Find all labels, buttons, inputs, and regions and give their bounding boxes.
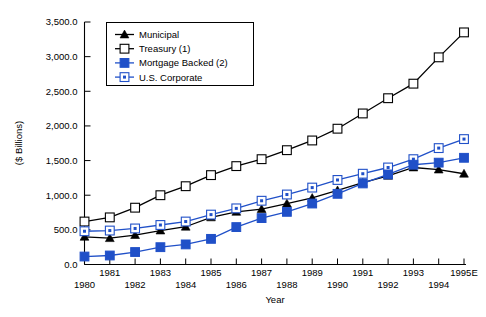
series-line: [85, 139, 465, 231]
marker-square-dot-center: [285, 193, 288, 196]
marker-square-open: [333, 124, 342, 133]
marker-square-open: [80, 217, 89, 226]
marker-square-filled: [80, 252, 89, 261]
marker-square-dot-center: [184, 220, 187, 223]
marker-square-dot-center: [235, 207, 238, 210]
y-axis-title: ($ Billions): [13, 121, 24, 165]
marker-square-dot-center: [260, 199, 263, 202]
x-tick-label: 1984: [175, 279, 196, 290]
marker-square-filled: [156, 243, 165, 252]
x-tick-label: 1990: [327, 279, 348, 290]
marker-square-filled: [460, 153, 469, 162]
x-tick-label: 1992: [378, 279, 399, 290]
y-tick-label: 500.0: [54, 224, 78, 235]
legend-item-u-s-corporate: U.S. Corporate: [115, 72, 202, 83]
marker-square-open: [358, 109, 367, 118]
marker-square-dot-center: [336, 178, 339, 181]
x-tick-label: 1989: [302, 267, 323, 278]
y-tick-label: 2,000.0: [46, 120, 78, 131]
chart-container: 0.0500.01,000.01,500.02,000.02,500.03,00…: [0, 0, 486, 317]
marker-square-filled: [434, 158, 443, 167]
legend-item-label: U.S. Corporate: [139, 72, 202, 83]
marker-square-open: [181, 182, 190, 191]
marker-square-dot-center: [387, 166, 390, 169]
marker-square-filled: [207, 234, 216, 243]
marker-square-open: [283, 146, 292, 155]
marker-square-dot-center: [311, 186, 314, 189]
marker-square-dot-center: [463, 138, 466, 141]
x-tick-label: 1987: [251, 267, 272, 278]
marker-square-filled: [308, 199, 317, 208]
marker-square-filled: [358, 179, 367, 188]
x-tick-label: 1995E: [450, 267, 477, 278]
x-tick-label: 1994: [428, 279, 449, 290]
y-tick-label: 0.0: [64, 259, 77, 270]
y-tick-label: 2,500.0: [46, 86, 78, 97]
x-tick-label: 1983: [150, 267, 171, 278]
marker-square-open: [384, 94, 393, 103]
marker-square-open: [257, 155, 266, 164]
marker-square-filled: [181, 240, 190, 249]
x-tick-label: 1982: [125, 279, 146, 290]
legend-item-label: Municipal: [139, 29, 179, 40]
x-tick-label: 1988: [276, 279, 297, 290]
x-tick-label: 1986: [226, 279, 247, 290]
marker-square-dot-center: [134, 227, 137, 230]
marker-square-dot-center: [159, 224, 162, 227]
x-tick-label: 1993: [403, 267, 424, 278]
marker-square-dot-center: [123, 76, 126, 79]
marker-square-open: [120, 44, 129, 53]
y-tick-label: 1,500.0: [46, 155, 78, 166]
marker-square-open: [308, 136, 317, 145]
marker-square-filled: [257, 214, 266, 223]
x-tick-label: 1985: [200, 267, 221, 278]
legend-item-treasury-1: Treasury (1): [115, 43, 190, 54]
marker-square-open: [156, 191, 165, 200]
series-u-s-corporate: [80, 135, 468, 236]
marker-square-dot-center: [83, 230, 86, 233]
marker-square-dot-center: [361, 172, 364, 175]
marker-square-dot-center: [210, 213, 213, 216]
marker-square-open: [207, 171, 216, 180]
x-tick-label: 1991: [352, 267, 373, 278]
marker-square-open: [131, 203, 140, 212]
securities-outstanding-line-chart: 0.0500.01,000.01,500.02,000.02,500.03,00…: [0, 0, 486, 317]
marker-square-filled: [384, 170, 393, 179]
x-axis-ticks: 1980198119821983198419851986198719881989…: [74, 259, 478, 290]
marker-square-filled: [105, 251, 114, 260]
x-tick-label: 1980: [74, 279, 95, 290]
marker-square-dot-center: [437, 147, 440, 150]
marker-square-filled: [232, 223, 241, 232]
series-line: [85, 158, 465, 257]
marker-square-filled: [131, 248, 140, 257]
legend-item-label: Treasury (1): [139, 43, 190, 54]
marker-square-filled: [409, 160, 418, 169]
x-tick-label: 1981: [99, 267, 120, 278]
marker-square-filled: [283, 207, 292, 216]
marker-square-open: [105, 213, 114, 222]
marker-square-open: [409, 79, 418, 88]
marker-square-filled: [333, 189, 342, 198]
marker-square-open: [460, 28, 469, 37]
y-tick-label: 3,000.0: [46, 51, 78, 62]
chart-legend: MunicipalTreasury (1)Mortgage Backed (2)…: [107, 23, 254, 86]
marker-square-dot-center: [108, 229, 111, 232]
marker-square-filled: [120, 59, 129, 68]
y-tick-label: 3,500.0: [46, 16, 78, 27]
marker-square-open: [434, 53, 443, 62]
y-tick-label: 1,000.0: [46, 190, 78, 201]
marker-square-open: [232, 162, 241, 171]
x-axis-title: Year: [265, 294, 284, 305]
legend-item-label: Mortgage Backed (2): [139, 57, 228, 68]
